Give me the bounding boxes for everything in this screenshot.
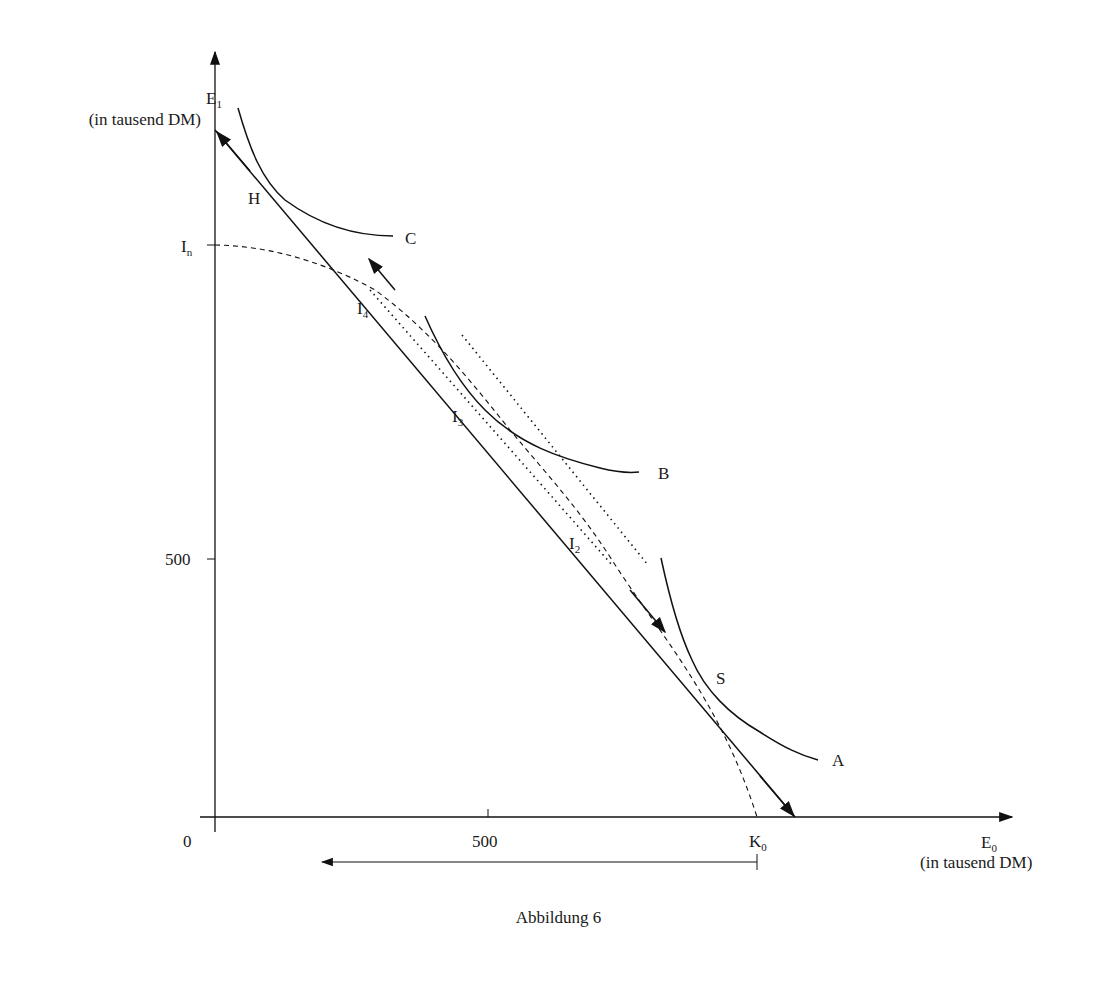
k0-subscript: 0 (761, 841, 767, 853)
y-axis-unit: (in tausend DM) (62, 111, 201, 128)
i3-subscript: 3 (458, 416, 464, 428)
y-axis-label: E1 (206, 90, 222, 110)
y-axis-symbol: E (206, 89, 216, 108)
chart-canvas (0, 0, 1117, 981)
point-h-label: H (248, 190, 260, 207)
market-line-arrow-top (217, 132, 250, 171)
curve-c-label: C (405, 230, 416, 247)
market-line-arrow-i2 (630, 590, 665, 632)
indifference-curve-b (425, 316, 639, 473)
curve-a-label: A (832, 752, 844, 769)
i2-subscript: 2 (575, 543, 581, 555)
indifference-curve-c (238, 108, 393, 236)
curve-b-label: B (658, 465, 669, 482)
x-axis-unit: (in tausend DM) (920, 854, 1032, 871)
point-s-label: S (716, 670, 725, 687)
market-line-arrow-bottom (760, 776, 794, 816)
figure-caption: Abbildung 6 (0, 908, 1117, 928)
k0-label: K0 (749, 833, 767, 853)
x-tick-label-500: 500 (472, 833, 498, 850)
market-line-arrow-i4 (369, 259, 395, 290)
in-label: In (181, 238, 192, 258)
y-axis-subscript: 1 (216, 98, 222, 110)
transformation-curve (215, 245, 757, 817)
origin-label: 0 (183, 833, 192, 850)
indifference-curve-a (661, 558, 818, 760)
figure: E1 (in tausend DM) E0 (in tausend DM) 0 … (0, 0, 1117, 981)
market-line-arrow-mid-up (367, 257, 390, 337)
point-i4-label: I4 (357, 300, 368, 320)
point-i3-label: I3 (452, 408, 463, 428)
x-axis-label: E0 (981, 834, 997, 854)
y-tick-label-500: 500 (165, 551, 191, 568)
k0-symbol: K (749, 832, 761, 851)
dotted-tangent-line (370, 290, 612, 565)
in-subscript: n (187, 246, 193, 258)
market-line (215, 130, 795, 817)
i4-subscript: 4 (363, 308, 369, 320)
point-i2-label: I2 (569, 535, 580, 555)
x-axis-symbol: E (981, 833, 991, 852)
dotted-parallel-line (462, 335, 648, 565)
